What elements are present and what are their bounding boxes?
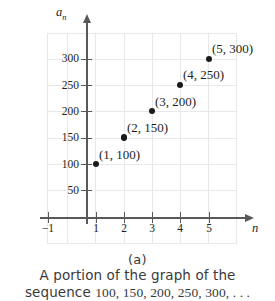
x-tick-label-minus1: −1 [35, 223, 61, 235]
y-tick-label-250: 250 [62, 80, 79, 92]
caption-line-1: A portion of the graph of the [0, 267, 275, 284]
caption-line-2-prefix: sequence [25, 284, 95, 300]
y-tick-mark [81, 138, 92, 139]
y-tick-label-300-wrap: 300 [34, 53, 79, 65]
y-axis-arrow-icon [83, 14, 91, 23]
data-point-label-5: (5, 300) [212, 42, 253, 55]
caption-sequence-values: 100, 150, 200, 250, 300, . . . [95, 285, 250, 300]
y-tick-label-100: 100 [62, 159, 79, 171]
y-tick-mark [81, 59, 92, 60]
y-tick-label-150-wrap: 150 [34, 132, 79, 144]
x-tick-label-2: 2 [111, 223, 137, 235]
x-tick-label-1: 1 [83, 223, 109, 235]
x-axis-label: n [252, 222, 258, 235]
y-tick-label-50-wrap: 50 [34, 185, 79, 197]
panel-letter: (a) [0, 253, 275, 267]
y-tick-label-300: 300 [62, 53, 79, 65]
gridline-horizontal [47, 243, 237, 244]
y-tick-label-50: 50 [68, 185, 80, 197]
gridline-horizontal [47, 33, 237, 34]
y-tick-mark [81, 190, 92, 191]
x-axis-line [40, 217, 246, 219]
y-axis-label-subscript: n [62, 12, 66, 22]
y-axis-line [86, 22, 88, 224]
x-tick-label-3: 3 [139, 223, 165, 235]
y-tick-mark [81, 85, 92, 86]
x-tick-label-4: 4 [167, 223, 193, 235]
data-point-label-3: (3, 200) [155, 95, 196, 108]
figure-caption: (a) A portion of the graph of the sequen… [0, 253, 275, 301]
data-point-label-1: (1, 100) [99, 148, 140, 161]
data-point-label-2: (2, 150) [127, 121, 168, 134]
y-tick-label-250-wrap: 250 [34, 80, 79, 92]
y-tick-label-200-wrap: 200 [34, 106, 79, 118]
y-tick-label-150: 150 [62, 132, 79, 144]
y-tick-mark [81, 164, 92, 165]
gridline-vertical [236, 33, 237, 244]
y-tick-label-100-wrap: 100 [34, 159, 79, 171]
data-point-label-4: (4, 250) [183, 68, 224, 81]
data-point-marker [121, 134, 127, 140]
x-tick-label-5: 5 [196, 223, 222, 235]
caption-line-2: sequence 100, 150, 200, 250, 300, . . . [0, 284, 275, 301]
y-tick-mark [81, 111, 92, 112]
y-axis-label: an [56, 6, 67, 21]
y-tick-label-200: 200 [62, 106, 79, 118]
